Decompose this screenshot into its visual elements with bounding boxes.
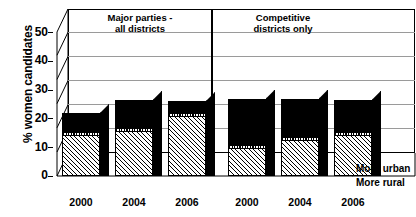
bar-left-2006-urban — [168, 113, 206, 176]
bar-left-2006[interactable] — [168, 101, 206, 176]
panel-title-left: Major parties - all districts — [72, 12, 208, 34]
bar-right-2006-urban-cap — [334, 132, 372, 136]
gridline-30 — [68, 80, 415, 81]
chart-container: % women candidates 50 40 30 20 10 0 — [0, 0, 416, 217]
panel-title-right-line1: Competitive — [215, 12, 351, 23]
y-tick-0: 0 — [41, 170, 48, 180]
legend-label-more-urban: More urban — [356, 163, 410, 174]
bar-left-2006-side — [206, 92, 215, 176]
y-tick-dash-40 — [48, 61, 53, 62]
panel-title-left-line1: Major parties - — [72, 12, 208, 23]
y-tick-dash-50 — [48, 32, 53, 33]
bar-right-2004[interactable] — [281, 99, 319, 176]
bar-left-2000-urban — [62, 132, 100, 176]
bar-left-2004-urban — [115, 128, 153, 176]
bar-right-2000-rural-stub — [228, 99, 266, 145]
bar-left-2000-urban-cap — [62, 132, 100, 136]
y-tick-dash-30 — [48, 90, 53, 91]
bar-right-2000-urban-cap — [228, 145, 266, 149]
bar-left-2004[interactable] — [115, 100, 153, 176]
gridline-30b — [68, 56, 415, 57]
x-tick-left-2006: 2006 — [167, 196, 207, 208]
x-tick-right-2006: 2006 — [333, 196, 373, 208]
y-tick-dash-10 — [48, 147, 53, 148]
bar-left-2004-rural-stub — [115, 100, 153, 128]
y-tick-50: 50 — [35, 27, 48, 37]
y-tick-40: 40 — [35, 55, 48, 65]
y-tick-30: 30 — [35, 84, 48, 94]
bar-left-2000-side — [100, 104, 109, 176]
panel-title-left-line2: all districts — [72, 23, 208, 34]
y-tick-dash-20 — [48, 118, 53, 119]
bar-right-2004-urban — [281, 137, 319, 176]
bar-right-2006-rural-stub — [334, 100, 372, 133]
x-tick-right-2000: 2000 — [227, 196, 267, 208]
x-tick-left-2000: 2000 — [61, 196, 101, 208]
panel-title-right-line2: districts only — [215, 23, 351, 34]
bar-left-2006-rural-stub — [168, 101, 206, 113]
bar-right-2000[interactable] — [228, 99, 266, 176]
bar-left-2004-urban-cap — [115, 128, 153, 132]
y-tick-20: 20 — [35, 113, 48, 123]
y-tick-dash-0 — [48, 176, 53, 177]
bar-left-2000-rural-stub — [62, 113, 100, 132]
bar-left-2004-side — [153, 91, 162, 176]
bar-left-2000[interactable] — [62, 113, 100, 176]
bar-right-2000-side — [266, 90, 275, 176]
bar-right-2004-side — [319, 90, 328, 176]
bar-right-2004-urban-cap — [281, 137, 319, 141]
bar-right-2000-urban — [228, 145, 266, 176]
x-tick-right-2004: 2004 — [280, 196, 320, 208]
panel-title-right: Competitive districts only — [215, 12, 351, 34]
y-tick-10: 10 — [35, 142, 48, 152]
x-tick-left-2004: 2004 — [114, 196, 154, 208]
bar-right-2004-rural-stub — [281, 99, 319, 138]
legend-label-more-rural: More rural — [356, 177, 405, 188]
bar-left-2006-urban-cap — [168, 113, 206, 117]
y-axis-ticks: 50 40 30 20 10 0 — [20, 0, 48, 217]
